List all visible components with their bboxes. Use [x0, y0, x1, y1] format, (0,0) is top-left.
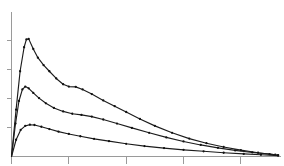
data-point-marker — [163, 147, 165, 149]
axes-group — [12, 12, 282, 157]
data-point-marker — [205, 142, 207, 144]
series-line — [12, 39, 276, 157]
data-point-marker — [182, 149, 184, 151]
data-point-marker — [29, 124, 31, 126]
data-series — [12, 38, 277, 157]
data-point-marker — [62, 83, 64, 85]
data-point-marker — [102, 99, 104, 101]
data-point-marker — [57, 131, 59, 133]
data-point-marker — [139, 118, 141, 120]
data-point-marker — [80, 114, 82, 116]
data-point-marker — [40, 126, 42, 128]
data-point-marker — [93, 138, 95, 140]
data-point-marker — [223, 152, 225, 154]
data-point-marker — [32, 92, 34, 94]
data-point-marker — [37, 57, 39, 59]
data-point-marker — [38, 97, 40, 99]
data-point-marker — [125, 143, 127, 145]
data-point-marker — [25, 38, 27, 40]
data-series-layer — [12, 38, 280, 157]
data-point-marker — [131, 127, 133, 129]
data-point-marker — [243, 153, 245, 155]
data-point-marker — [28, 87, 30, 89]
data-point-marker — [28, 38, 30, 40]
data-point-marker — [165, 136, 167, 138]
data-point-marker — [114, 105, 116, 107]
data-point-marker — [18, 100, 20, 102]
y-axis-ticks — [7, 41, 12, 128]
data-point-marker — [102, 118, 104, 120]
data-point-marker — [81, 88, 83, 90]
data-point-marker — [116, 122, 118, 124]
data-point-marker — [200, 144, 202, 146]
data-point-marker — [188, 137, 190, 139]
series-line — [12, 125, 279, 157]
data-point-marker — [171, 132, 173, 134]
data-point-marker — [20, 129, 22, 131]
data-point-marker — [125, 111, 127, 113]
data-point-marker — [23, 46, 25, 48]
data-point-marker — [24, 85, 26, 87]
data-point-marker — [79, 135, 81, 137]
data-point-marker — [33, 124, 35, 126]
data-point-marker — [15, 139, 17, 141]
data-point-marker — [15, 109, 17, 111]
data-point-marker — [234, 149, 236, 151]
data-point-marker — [42, 64, 44, 66]
data-point-marker — [143, 145, 145, 147]
data-point-marker — [21, 88, 23, 90]
data-point-marker — [48, 70, 50, 72]
data-point-marker — [53, 107, 55, 109]
data-point-marker — [75, 86, 77, 88]
data-point-marker — [68, 85, 70, 87]
line-chart-plot — [0, 0, 284, 166]
chart-container — [0, 0, 284, 166]
data-point-marker — [55, 77, 57, 79]
x-axis-ticks — [12, 157, 241, 164]
data-point-marker — [91, 115, 93, 117]
data-point-marker — [260, 154, 262, 156]
data-point-marker — [24, 125, 26, 127]
data-point-marker — [223, 146, 225, 148]
data-point-marker — [32, 48, 34, 50]
data-point-marker — [202, 150, 204, 152]
data-point-marker — [154, 125, 156, 127]
data-point-marker — [91, 93, 93, 95]
data-point-marker — [48, 128, 50, 130]
data-point-marker — [217, 147, 219, 149]
data-point-marker — [71, 113, 73, 115]
data-point-marker — [68, 133, 70, 135]
data-point-marker — [251, 151, 253, 153]
data-point-marker — [108, 140, 110, 142]
data-point-marker — [148, 132, 150, 134]
data-point-marker — [62, 110, 64, 112]
data-point-marker — [14, 122, 16, 124]
data-point-marker — [19, 70, 21, 72]
data-point-marker — [45, 102, 47, 104]
data-series — [12, 124, 280, 157]
data-point-marker — [277, 154, 279, 156]
data-point-marker — [182, 140, 184, 142]
